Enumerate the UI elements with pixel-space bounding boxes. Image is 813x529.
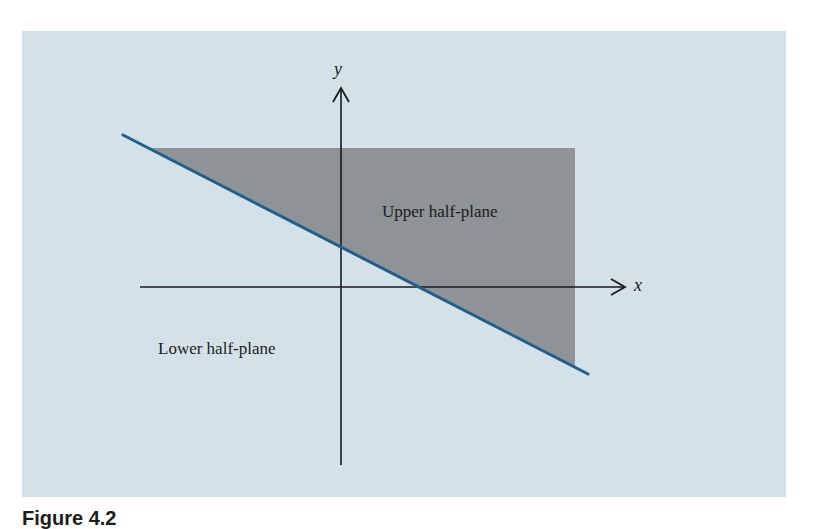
- x-axis-label: x: [634, 276, 642, 294]
- figure-caption: Figure 4.2: [22, 508, 116, 528]
- upper-half-plane-label: Upper half-plane: [382, 203, 498, 220]
- lower-half-plane-label: Lower half-plane: [158, 340, 276, 357]
- y-axis-label: y: [334, 60, 342, 78]
